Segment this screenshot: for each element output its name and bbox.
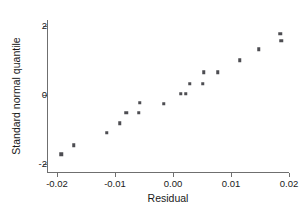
data-point	[188, 82, 192, 86]
data-point	[280, 39, 284, 43]
x-axis-line	[47, 172, 289, 173]
scatter-plot-figure: -0.02-0.010.000.010.02 20-2 Residual Sta…	[0, 0, 299, 209]
x-tick-mark	[57, 173, 58, 177]
data-point	[179, 92, 183, 96]
data-point	[279, 32, 283, 36]
data-point	[124, 111, 128, 115]
data-point	[202, 70, 206, 74]
data-point	[216, 70, 220, 74]
x-tick-label: -0.01	[104, 179, 126, 189]
data-point	[138, 101, 142, 105]
y-axis-title: Standard normal quantile	[10, 16, 22, 176]
x-tick-label: 0.01	[222, 179, 241, 189]
data-point	[59, 153, 63, 157]
x-tick-label: 0.02	[280, 179, 299, 189]
y-tick-label: -2	[39, 159, 47, 169]
data-point	[118, 122, 122, 126]
x-axis-title: Residual	[47, 192, 289, 204]
y-tick-label: 2	[42, 21, 47, 31]
data-point	[105, 131, 109, 135]
data-point	[184, 92, 188, 96]
x-tick-mark	[173, 173, 174, 177]
data-point	[162, 102, 166, 106]
data-point	[201, 82, 205, 86]
data-point	[72, 144, 76, 148]
y-axis-line	[47, 20, 48, 173]
x-tick-mark	[231, 173, 232, 177]
x-tick-label: 0.00	[164, 179, 183, 189]
x-tick-mark	[289, 173, 290, 177]
x-tick-label: -0.02	[46, 179, 68, 189]
x-tick-mark	[115, 173, 116, 177]
y-tick-label: 0	[42, 90, 47, 100]
plot-area: -0.02-0.010.000.010.02 20-2 Residual Sta…	[0, 0, 299, 209]
data-point	[137, 111, 141, 115]
data-point	[257, 47, 261, 51]
data-point	[238, 58, 242, 62]
